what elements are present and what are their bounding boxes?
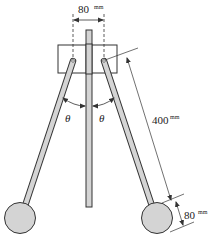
left-bob (5, 203, 36, 234)
right-pivot (103, 60, 106, 63)
pivot-spacing-value: 80 (78, 3, 90, 15)
extension-line-bob-bottom (170, 222, 194, 232)
bob-diameter-value: 80 (184, 209, 196, 221)
theta-right-label: θ (99, 112, 105, 124)
arm-length-unit: mm (170, 114, 180, 120)
dimension-line-400 (127, 58, 171, 200)
center-rod-front (86, 44, 92, 74)
extension-line-bob-top (162, 194, 184, 203)
right-bob (142, 203, 173, 234)
right-arm (103, 60, 152, 206)
angle-theta-right: θ (93, 98, 114, 124)
arm-length-value: 400 (152, 114, 169, 126)
left-pivot (72, 60, 75, 63)
bob-diameter-unit: mm (198, 209, 208, 215)
left-arm (25, 60, 74, 206)
governor-diagram: 80 mm θ θ 400 mm 80 m (0, 0, 215, 240)
theta-left-label: θ (65, 112, 71, 124)
angle-theta-left: θ (63, 98, 85, 124)
pivot-spacing-unit: mm (94, 4, 104, 10)
dimension-line-80-bob (176, 202, 183, 225)
leader-line-top (105, 48, 138, 60)
